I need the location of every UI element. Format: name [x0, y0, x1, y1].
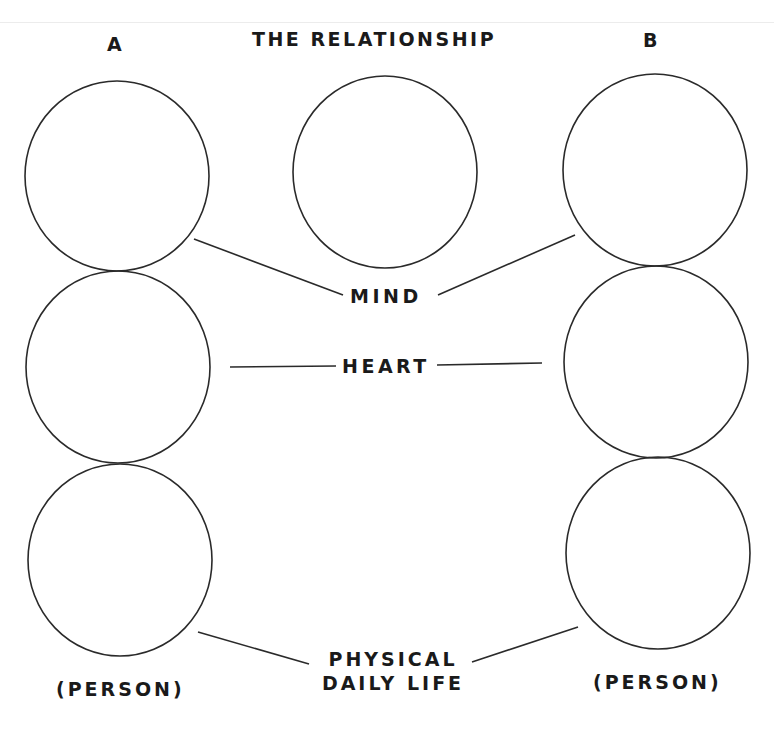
- circle-b-physical: [566, 457, 750, 649]
- physical-label-line1: PHYSICAL: [312, 647, 474, 671]
- person-b-label: (PERSON): [593, 673, 722, 692]
- circle-a-physical: [28, 464, 212, 656]
- physical-daily-life-label: PHYSICAL DAILY LIFE: [312, 647, 474, 695]
- mind-label: MIND: [350, 287, 422, 306]
- circle-a-heart: [26, 271, 210, 463]
- circle-a-mind: [25, 81, 209, 271]
- connector-physical-left: [198, 632, 309, 664]
- column-a-label: A: [107, 35, 122, 54]
- connector-heart-right: [437, 363, 542, 365]
- heart-label: HEART: [342, 357, 430, 376]
- circle-b-mind: [563, 74, 747, 266]
- connector-heart-left: [230, 366, 336, 367]
- connector-mind-right: [438, 235, 575, 295]
- physical-label-line2: DAILY LIFE: [312, 671, 474, 695]
- connector-mind-left: [194, 239, 343, 295]
- person-a-label: (PERSON): [56, 680, 185, 699]
- circle-relationship: [293, 76, 477, 268]
- circle-b-heart: [564, 266, 748, 458]
- column-b-label: B: [643, 31, 657, 50]
- diagram-title: THE RELATIONSHIP: [252, 30, 496, 49]
- connector-physical-right: [472, 627, 578, 662]
